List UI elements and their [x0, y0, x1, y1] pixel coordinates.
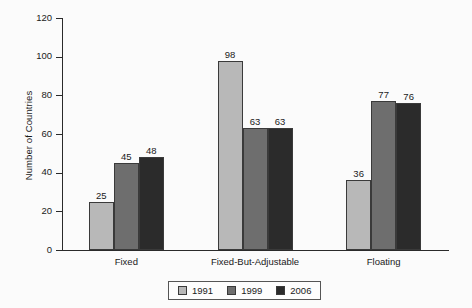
bar: 45	[114, 163, 139, 250]
legend-swatch	[227, 286, 236, 295]
legend-item: 1991	[178, 286, 213, 296]
bar: 25	[89, 202, 114, 250]
y-axis-tick-label: 60	[41, 128, 52, 139]
bar: 77	[371, 101, 396, 250]
bar-value-label: 45	[121, 151, 132, 162]
bar-value-label: 63	[275, 116, 286, 127]
bar-value-label: 76	[403, 91, 414, 102]
plot-area: 254548986363367776	[62, 18, 448, 250]
legend-item: 2006	[276, 286, 311, 296]
legend-swatch	[178, 286, 187, 295]
x-axis-line	[62, 250, 449, 251]
bar-chart: Number of Countries 020406080100120 2545…	[0, 0, 472, 308]
bar: 76	[396, 103, 421, 250]
bar: 98	[218, 61, 243, 250]
bar: 63	[268, 128, 293, 250]
legend-item: 1999	[227, 286, 262, 296]
bar-value-label: 48	[146, 145, 157, 156]
y-axis-tick-label: 40	[41, 166, 52, 177]
legend-swatch	[276, 286, 285, 295]
y-axis-tick-label: 80	[41, 89, 52, 100]
bar-value-label: 63	[250, 116, 261, 127]
bar-value-label: 36	[353, 168, 364, 179]
bar: 36	[346, 180, 371, 250]
legend-label: 2006	[290, 286, 311, 296]
y-axis-title: Number of Countries	[23, 46, 34, 226]
legend-label: 1999	[241, 286, 262, 296]
y-axis-tick-label: 120	[36, 12, 52, 23]
y-axis-tick-label: 100	[36, 50, 52, 61]
bar-value-label: 25	[96, 190, 107, 201]
y-axis-tick-mark	[56, 250, 62, 251]
bar: 63	[243, 128, 268, 250]
bar-value-label: 98	[225, 49, 236, 60]
bar-value-label: 77	[378, 89, 389, 100]
bar: 48	[139, 157, 164, 250]
legend-label: 1991	[192, 286, 213, 296]
y-axis-tick-label: 20	[41, 205, 52, 216]
x-axis-category-label: Floating	[304, 256, 464, 267]
chart-legend: 199119992006	[168, 281, 321, 300]
y-axis-tick-label: 0	[47, 244, 52, 255]
